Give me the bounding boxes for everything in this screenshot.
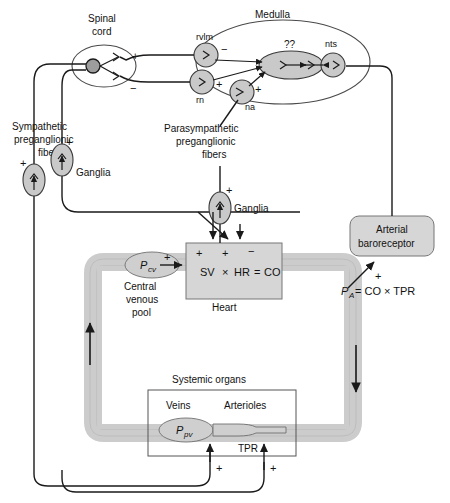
- veins-plus-sign: +: [216, 462, 222, 474]
- cardiovascular-regulation-diagram: SV × HR = CO Heart P cv + Central venous…: [0, 0, 450, 503]
- ganglia-left-label: Ganglia: [76, 167, 111, 178]
- pcv-symbol: P: [140, 259, 148, 271]
- baroreceptor-to-nts-wire: [346, 66, 392, 216]
- pa-equation-rest: = CO × TPR: [355, 285, 415, 297]
- spinal-synapse-chevron-upper: [113, 53, 119, 61]
- nucleus-label-na: na: [245, 102, 255, 112]
- parasympathetic-label-line2: preganglionic: [176, 136, 236, 147]
- heart-equation-hr: HR: [234, 266, 250, 278]
- baroreceptor-label-line1: Arterial: [376, 224, 408, 235]
- spinal-cord: Spinal cord + −: [72, 13, 138, 94]
- arterioles-label: Arterioles: [224, 400, 266, 411]
- fiber-to-veins-wire: [34, 452, 210, 486]
- rvlm-to-center-wire: [215, 60, 262, 62]
- cvp-label-line2: venous: [126, 294, 158, 305]
- spinal-cord-outline: [72, 45, 136, 87]
- medulla: Medulla ?? rvlm − rn + na +: [190, 9, 370, 112]
- nucleus-label-rn: rn: [196, 95, 204, 105]
- spinal-cord-label-line1: Spinal: [88, 13, 116, 24]
- heart-equation-times: ×: [222, 266, 228, 278]
- heart-sv-plus-sign: +: [196, 247, 202, 259]
- pcv-subscript: cv: [148, 265, 157, 274]
- spinal-cord-soma[interactable]: [86, 59, 100, 73]
- nucleus-rvlm[interactable]: [194, 43, 218, 67]
- rvlm-minus-sign: −: [221, 43, 227, 55]
- spinal-branch-upper: [100, 57, 118, 66]
- unknown-label: ??: [284, 39, 296, 50]
- heart-label: Heart: [212, 302, 237, 313]
- ganglion-inner-plus-sign: +: [66, 136, 72, 148]
- heart-hr-plus-sign: +: [222, 247, 228, 259]
- veins-label: Veins: [166, 400, 190, 411]
- pcv-plus-sign: +: [164, 251, 170, 263]
- tpr-label: TPR: [238, 443, 258, 454]
- spinal-synapse-chevron-lower: [113, 72, 119, 80]
- heart-equation-equals: =: [254, 266, 260, 278]
- sympathetic-label-line2: preganglionic: [14, 134, 74, 145]
- ppv-symbol: P: [176, 424, 184, 436]
- baroreceptor-afferent: [346, 66, 392, 216]
- diagram-canvas: SV × HR = CO Heart P cv + Central venous…: [0, 0, 450, 503]
- fiber-to-tpr-wire: [62, 462, 264, 492]
- rn-to-center-wire: [213, 67, 262, 80]
- spinal-cord-label-line2: cord: [92, 26, 111, 37]
- rn-plus-sign: +: [216, 78, 222, 90]
- na-plus-sign: +: [255, 83, 261, 95]
- heart-equation-sv: SV: [200, 266, 215, 278]
- systemic-organs-label: Systemic organs: [172, 374, 246, 385]
- tpr-plus-sign: +: [270, 462, 276, 474]
- sympathetic-label-line1: Sympathetic: [12, 121, 67, 132]
- heart-equation-co: CO: [264, 266, 281, 278]
- baroreceptor-box[interactable]: [350, 216, 434, 256]
- spinal-branch-lower: [100, 66, 118, 76]
- parasympathetic-label-line1: Parasympathetic: [164, 123, 238, 134]
- nucleus-rn[interactable]: [190, 70, 214, 94]
- nucleus-nts[interactable]: [321, 53, 345, 77]
- ganglia-heart-label: Ganglia: [234, 203, 269, 214]
- spinal-cord-minus-sign: −: [130, 82, 136, 94]
- parasympathetic-label-line3: fibers: [202, 149, 226, 160]
- cvp-label-line1: Central: [124, 281, 156, 292]
- parasympathetic-fibers: Parasympathetic preganglionic fibers + G…: [164, 100, 269, 243]
- pa-symbol: P: [341, 285, 349, 297]
- baroreceptor-label-line2: baroreceptor: [358, 238, 415, 249]
- ganglion-outer-plus-sign: +: [20, 157, 26, 169]
- pa-subscript: A: [348, 291, 354, 300]
- baroreceptor-plus-sign: +: [375, 270, 381, 282]
- ganglion-heart-plus-sign: +: [226, 184, 232, 196]
- nucleus-label-nts: nts: [325, 39, 338, 49]
- systemic-organs: Systemic organs Veins Arterioles P pv TP…: [148, 374, 296, 456]
- cvp-label-line3: pool: [132, 307, 151, 318]
- ppv-subscript: pv: [183, 430, 193, 439]
- medulla-label: Medulla: [255, 9, 290, 20]
- nucleus-label-rvlm: rvlm: [196, 32, 213, 42]
- heart-hr-minus-sign: −: [248, 245, 254, 257]
